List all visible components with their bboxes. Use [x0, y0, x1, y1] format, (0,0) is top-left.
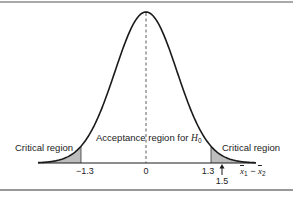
critical-region-right-label: Critical region — [222, 143, 280, 153]
tick-label-1-3: 1.3 — [202, 167, 215, 176]
tick-label-0: 0 — [143, 167, 148, 176]
x-axis-label: x1 − x2 — [240, 167, 266, 178]
observed-value-arrow-icon — [220, 164, 225, 175]
acceptance-region-label: Acceptance region for H0 — [96, 133, 202, 145]
minus-sign: − — [248, 166, 258, 176]
acceptance-region-text: Acceptance region for — [96, 132, 191, 143]
critical-region-left-label: Critical region — [15, 143, 73, 153]
normal-distribution-figure: Critical region Critical region Acceptan… — [0, 0, 293, 200]
observed-value-label: 1.5 — [216, 177, 229, 186]
xbar-subscript-2: 2 — [262, 170, 266, 177]
hypothesis-subscript: 0 — [198, 137, 202, 144]
hypothesis-symbol: H — [191, 133, 198, 143]
tick-label-neg-1-3: −1.3 — [76, 167, 94, 176]
